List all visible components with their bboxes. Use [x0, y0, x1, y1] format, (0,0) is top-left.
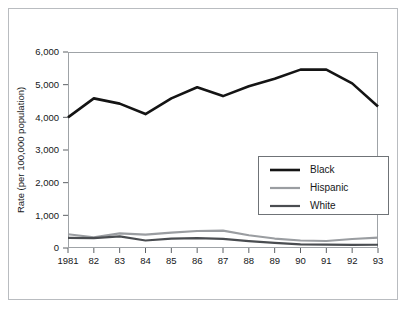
x-tick-label: 93: [373, 255, 384, 266]
x-tick-label: 86: [192, 255, 203, 266]
legend-label-hispanic: Hispanic: [310, 182, 348, 193]
chart-legend: BlackHispanicWhite: [259, 157, 389, 215]
y-axis-title: Rate (per 100,000 population): [15, 87, 26, 213]
y-tick-label: 2,000: [35, 177, 59, 188]
y-tick-label: 0: [54, 242, 59, 253]
chart-page: 01,0002,0003,0004,0005,0006,000 19818283…: [0, 0, 412, 318]
plot-background: [68, 52, 378, 248]
x-tick-label: 84: [140, 255, 151, 266]
x-tick-label: 89: [269, 255, 280, 266]
y-axis-ticks: 01,0002,0003,0004,0005,0006,000: [35, 46, 68, 253]
y-tick-label: 5,000: [35, 79, 59, 90]
x-tick-label: 82: [89, 255, 100, 266]
legend-label-black: Black: [310, 164, 335, 175]
line-chart: 01,0002,0003,0004,0005,0006,000 19818283…: [0, 0, 412, 318]
y-tick-label: 6,000: [35, 46, 59, 57]
x-tick-label: 87: [218, 255, 229, 266]
x-tick-label: 1981: [57, 255, 78, 266]
y-tick-label: 1,000: [35, 210, 59, 221]
x-tick-label: 88: [244, 255, 255, 266]
x-tick-label: 83: [114, 255, 125, 266]
legend-label-white: White: [310, 200, 336, 211]
x-axis-ticks: 1981828384858687888990919293: [57, 248, 383, 266]
y-tick-label: 4,000: [35, 112, 59, 123]
x-tick-label: 91: [321, 255, 332, 266]
y-tick-label: 3,000: [35, 144, 59, 155]
x-tick-label: 85: [166, 255, 177, 266]
x-tick-label: 92: [347, 255, 358, 266]
x-tick-label: 90: [295, 255, 306, 266]
